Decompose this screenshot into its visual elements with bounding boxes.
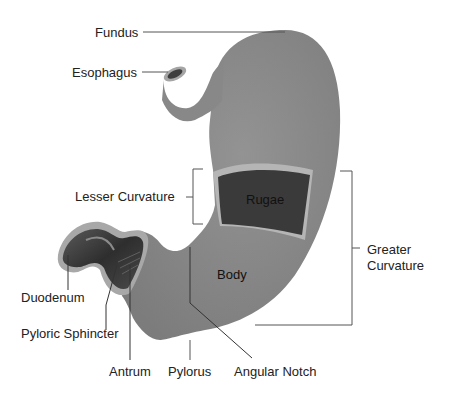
label-body: Body	[217, 267, 247, 282]
label-fundus: Fundus	[95, 25, 139, 40]
label-pylorus: Pylorus	[168, 364, 212, 379]
lesser-curvature-bracket	[186, 169, 203, 224]
label-rugae: Rugae	[246, 192, 284, 207]
stomach-diagram: Fundus Esophagus Lesser Curvature Rugae …	[0, 0, 450, 399]
label-pyloric-sphincter: Pyloric Sphincter	[21, 326, 119, 341]
label-duodenum: Duodenum	[21, 290, 85, 305]
label-antrum: Antrum	[109, 364, 151, 379]
label-esophagus: Esophagus	[72, 65, 138, 80]
label-lesser-curvature: Lesser Curvature	[75, 189, 175, 204]
label-angular-notch: Angular Notch	[234, 364, 316, 379]
label-greater-curvature-line1: Greater	[367, 242, 412, 257]
label-greater-curvature-line2: Curvature	[367, 258, 424, 273]
